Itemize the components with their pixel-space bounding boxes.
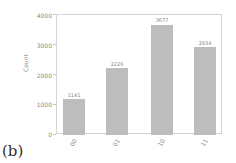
- y-tick-0: 0: [28, 131, 52, 138]
- panel-label: (b): [2, 142, 23, 160]
- bar-01: [106, 68, 128, 135]
- x-tick-01: 01: [110, 136, 122, 150]
- x-tick-11: 11: [198, 136, 210, 150]
- bar-value-label: 3677: [147, 17, 177, 23]
- y-tick-3000: 3000: [28, 42, 52, 49]
- y-tick-2000: 2000: [28, 72, 52, 79]
- x-tick-00: 00: [67, 136, 79, 150]
- plot-area: 1141 2226 3677 2934: [56, 14, 222, 134]
- x-tick-10: 10: [155, 136, 167, 150]
- bar-00: [63, 99, 85, 135]
- bar-11: [194, 47, 216, 135]
- y-axis-label: Count: [22, 54, 29, 72]
- y-tick-4000: 4000: [28, 12, 52, 19]
- y-tick-mark: [53, 134, 56, 135]
- y-tick-1000: 1000: [28, 101, 52, 108]
- bar-value-label: 2934: [190, 40, 220, 46]
- bar-value-label: 1141: [59, 92, 89, 98]
- bar-value-label: 2226: [102, 61, 132, 67]
- bar-10: [151, 25, 173, 135]
